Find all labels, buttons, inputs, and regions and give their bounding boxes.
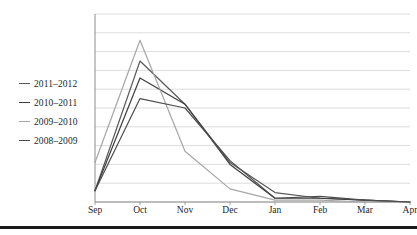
- line-chart-figure: 2011–2012 2010–2011 2009–2010 2008–2009 …: [0, 0, 417, 235]
- legend-label-2010-2011: 2010–2011: [34, 98, 77, 108]
- x-tick-label-oct: Oct: [133, 205, 147, 215]
- legend-item-2009-2010[interactable]: 2009–2010: [19, 112, 97, 131]
- x-tick-label-sep: Sep: [88, 205, 102, 215]
- legend-swatch-2010-2011: [19, 102, 30, 103]
- legend-swatch-2008-2009: [19, 140, 30, 141]
- x-tick-label-mar: Mar: [357, 205, 373, 215]
- x-tick-label-jan: Jan: [269, 205, 282, 215]
- x-tick-label-nov: Nov: [177, 205, 193, 215]
- legend-label-2009-2010: 2009–2010: [34, 117, 78, 127]
- legend-label-2008-2009: 2008–2009: [34, 136, 78, 146]
- legend-item-2011-2012[interactable]: 2011–2012: [19, 74, 97, 93]
- axis-lines-group: [95, 14, 410, 205]
- x-tick-label-apr: Apr: [403, 205, 417, 215]
- x-tick-label-dec: Dec: [222, 205, 237, 215]
- legend-label-2011-2012: 2011–2012: [34, 79, 77, 89]
- chart-legend: 2011–2012 2010–2011 2009–2010 2008–2009: [19, 74, 97, 150]
- series-line-2008-2009: [95, 99, 410, 202]
- gridlines-group: [95, 14, 410, 202]
- footer-rule: [0, 226, 417, 229]
- legend-swatch-2009-2010: [19, 121, 30, 122]
- x-tick-label-feb: Feb: [313, 205, 327, 215]
- series-lines-group: [95, 40, 410, 202]
- legend-swatch-2011-2012: [19, 83, 30, 84]
- legend-item-2010-2011[interactable]: 2010–2011: [19, 93, 97, 112]
- legend-item-2008-2009[interactable]: 2008–2009: [19, 131, 97, 150]
- x-axis-tick-labels: SepOctNovDecJanFebMarApr: [0, 203, 417, 221]
